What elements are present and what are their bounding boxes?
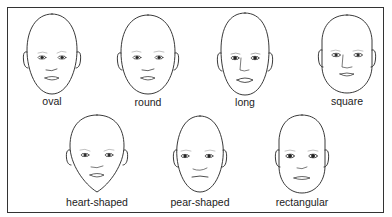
label-square: square: [297, 95, 392, 107]
face-pear-shaped-icon: [173, 116, 226, 192]
face-square-icon: [318, 15, 375, 93]
face-long-icon: [217, 13, 272, 95]
face-rectangular-icon: [275, 115, 328, 193]
label-long: long: [195, 96, 295, 108]
label-heart-shaped: heart-shaped: [47, 196, 147, 208]
face-oval-icon: [23, 14, 80, 94]
face-heart-shaped-icon: [66, 115, 127, 192]
label-rectangular: rectangular: [252, 196, 352, 208]
face-round-icon: [117, 15, 178, 94]
label-oval: oval: [2, 95, 102, 107]
label-pear-shaped: pear-shaped: [150, 196, 250, 208]
label-round: round: [98, 96, 198, 108]
face-shapes-illustration: [0, 0, 392, 217]
